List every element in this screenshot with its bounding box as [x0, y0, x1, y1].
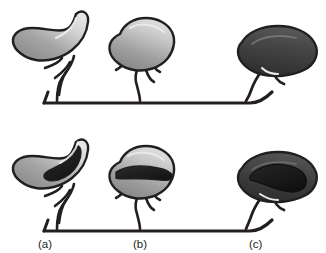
top-panel-c [238, 26, 317, 101]
top-b-body [109, 18, 174, 71]
panel-labels-group: (a) (b) (c) [38, 238, 263, 250]
top-c-body [238, 26, 317, 76]
top-baseline [44, 92, 272, 103]
bottom-baseline-group [44, 220, 272, 231]
panel-label-c: (c) [249, 238, 263, 250]
panel-label-b: (b) [133, 238, 147, 250]
figure-container: (a) (b) (c) [0, 0, 326, 253]
bottom-baseline-left-tick [44, 220, 48, 231]
bottom-baseline [44, 220, 272, 231]
bottom-panel-b [109, 146, 174, 229]
anatomical-stage-diagram: (a) (b) (c) [0, 0, 326, 253]
top-baseline-group [44, 92, 272, 103]
top-a-stems [45, 56, 74, 101]
panel-label-a: (a) [38, 238, 52, 250]
bottom-panel-a [13, 139, 88, 229]
bottom-a-stems [45, 184, 74, 229]
top-row-group [13, 11, 317, 103]
top-baseline-left-tick [44, 92, 48, 103]
top-panel-b [109, 18, 174, 101]
bottom-panel-c [238, 152, 317, 229]
top-panel-a [13, 11, 88, 101]
bottom-row-group [13, 139, 317, 231]
